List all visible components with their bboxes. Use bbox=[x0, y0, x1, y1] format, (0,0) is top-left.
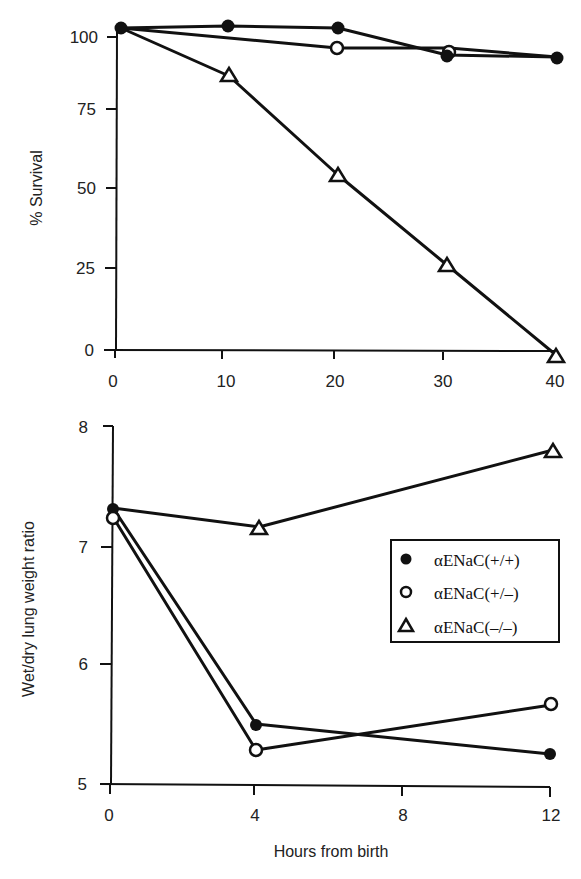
series-line-knockout bbox=[121, 28, 556, 355]
legend-filled-circle-icon bbox=[401, 554, 412, 565]
y-tick-label: 25 bbox=[76, 259, 95, 278]
y-tick-label: 0 bbox=[85, 341, 94, 360]
open-circle-marker bbox=[331, 42, 343, 54]
x-tick-label: 30 bbox=[434, 372, 453, 391]
filled-circle-marker bbox=[222, 20, 235, 33]
y-tick-label: 100 bbox=[70, 28, 98, 47]
filled-circle-marker bbox=[115, 22, 128, 35]
y-tick-label: 50 bbox=[77, 179, 96, 198]
x-tick-label: 0 bbox=[104, 806, 113, 825]
y-tick-label: 75 bbox=[77, 100, 96, 119]
figure: 100 75 50 25 0 0 10 20 30 40 % Survival bbox=[0, 0, 581, 879]
legend: αENaC(+/+) αENaC(+/–) αENaC(–/–) bbox=[391, 540, 559, 642]
legend-open-circle-icon bbox=[401, 587, 411, 597]
y-axis-title: % Survival bbox=[28, 150, 45, 226]
y-axis bbox=[116, 30, 117, 351]
legend-label: αENaC(+/–) bbox=[434, 584, 519, 603]
x-tick-label: 0 bbox=[108, 372, 117, 391]
open-circle-marker bbox=[545, 698, 557, 710]
x-tick-label: 4 bbox=[250, 806, 259, 825]
y-ticks bbox=[104, 37, 117, 350]
y-axis-title: Wet/dry lung weight ratio bbox=[20, 521, 37, 697]
x-axis-title: Hours from birth bbox=[274, 843, 389, 860]
y-axis bbox=[111, 426, 113, 784]
filled-circle-marker bbox=[551, 52, 564, 65]
lung-weight-chart: 8 7 6 5 0 4 8 12 Hours from birth Wet/dr… bbox=[20, 418, 561, 860]
y-tick-label: 5 bbox=[78, 775, 87, 794]
open-circle-marker bbox=[250, 744, 262, 756]
x-tick-label: 12 bbox=[542, 806, 561, 825]
series-line-knockout bbox=[113, 450, 553, 527]
filled-circle-marker bbox=[441, 50, 454, 63]
markers-heterozygous bbox=[331, 42, 455, 58]
x-axis bbox=[104, 350, 558, 351]
x-axis bbox=[100, 784, 550, 787]
open-circle-marker bbox=[107, 512, 119, 524]
x-tick-label: 10 bbox=[217, 372, 236, 391]
y-tick-label: 8 bbox=[79, 418, 88, 437]
legend-label: αENaC(+/+) bbox=[434, 551, 520, 570]
legend-label: αENaC(–/–) bbox=[434, 618, 518, 637]
filled-circle-marker bbox=[332, 22, 345, 35]
survival-chart: 100 75 50 25 0 0 10 20 30 40 % Survival bbox=[28, 20, 564, 392]
x-tick-label: 20 bbox=[326, 372, 345, 391]
x-tick-label: 8 bbox=[398, 806, 407, 825]
y-tick-label: 6 bbox=[79, 655, 88, 674]
x-tick-label: 40 bbox=[546, 372, 565, 391]
y-tick-label: 7 bbox=[79, 538, 88, 557]
filled-circle-marker bbox=[250, 719, 262, 731]
filled-circle-marker bbox=[544, 748, 556, 760]
